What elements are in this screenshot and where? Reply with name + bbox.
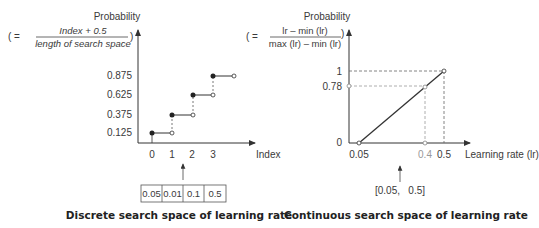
continuous-chart: Probability ( = lr – min (lr) max (lr) –… [246, 11, 539, 221]
open-point [347, 84, 351, 88]
open-point [232, 74, 236, 78]
right-x-tick: 0.05 [349, 149, 369, 160]
left-x-tick: 2 [189, 149, 195, 160]
filled-point [191, 93, 196, 98]
open-point [191, 113, 195, 117]
right-y-axis-label: Probability [304, 11, 351, 22]
open-point [423, 85, 427, 89]
right-x-tick: 0.4 [418, 149, 432, 160]
linear-series [359, 71, 444, 143]
open-point [211, 93, 215, 97]
search-space-table: 0.05 0.01 0.1 0.5 [141, 185, 226, 202]
left-y-tick: 0.875 [107, 70, 132, 81]
left-formula-numerator: Index + 0.5 [59, 25, 107, 36]
left-x-tick: 3 [210, 149, 216, 160]
table-cell: 0.5 [208, 188, 221, 199]
open-point [170, 131, 174, 135]
right-x-axis-label: Learning rate (lr) [465, 149, 539, 160]
right-y-tick: 1 [336, 66, 342, 77]
left-caption: Discrete search space of learning rate [66, 209, 292, 221]
range-label: [0.05, 0.5] [375, 185, 425, 196]
left-formula-denominator: length of search space [35, 38, 131, 49]
left-y-tick: 0.375 [107, 109, 132, 120]
left-x-axis-label: Index [256, 149, 280, 160]
right-formula-suffix: ) [341, 28, 344, 39]
step-series [150, 74, 237, 144]
left-y-tick: 0.125 [107, 127, 132, 138]
filled-point [150, 131, 155, 136]
table-cell: 0.1 [187, 188, 200, 199]
filled-point [211, 74, 216, 79]
left-x-tick: 0 [149, 149, 155, 160]
right-x-tick: 0.5 [437, 149, 451, 160]
right-caption: Continuous search space of learning rate [284, 209, 528, 221]
open-point [423, 141, 427, 145]
right-formula-denominator: max (lr) – min (lr) [269, 38, 341, 49]
right-y-tick: 0 [336, 137, 342, 148]
filled-point [170, 113, 175, 118]
table-cell: 0.01 [163, 188, 182, 199]
discrete-chart: Probability ( = Index + 0.5 length of se… [8, 11, 292, 221]
left-y-tick: 0.625 [107, 89, 132, 100]
table-cell: 0.05 [142, 188, 161, 199]
diagram-canvas: Probability ( = Index + 0.5 length of se… [0, 0, 539, 228]
left-x-tick: 1 [169, 149, 175, 160]
left-formula-prefix: ( = [8, 31, 20, 42]
left-y-axis-label: Probability [94, 11, 141, 22]
right-formula-numerator: lr – min (lr) [282, 25, 327, 36]
left-formula-suffix: ) [130, 31, 133, 42]
open-point [357, 141, 361, 145]
open-point [442, 69, 446, 73]
right-y-tick: 0.78 [323, 81, 343, 92]
right-formula-prefix: ( = [246, 31, 258, 42]
